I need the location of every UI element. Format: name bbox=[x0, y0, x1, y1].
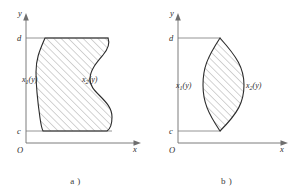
panel-b-caption: b ) bbox=[151, 176, 302, 186]
panel-a-origin-label: O bbox=[17, 145, 23, 155]
panel-b-right-curve-label: x2(y) bbox=[245, 81, 262, 91]
panel-b-x-axis-label: x bbox=[279, 144, 284, 154]
panel-a-right-curve-label: x2(y) bbox=[81, 75, 98, 85]
figure-root: y x O d c x1(y) x2(y) a ) bbox=[0, 0, 302, 194]
panel-a-left-curve-label: x1(y) bbox=[21, 75, 38, 85]
panel-b-left-curve-label: x1(y) bbox=[175, 81, 192, 91]
panel-a-x-axis-label: x bbox=[132, 144, 137, 154]
panel-b-y-axis-label: y bbox=[169, 8, 174, 18]
figure-panel-b: y x O d c x1(y) x2(y) b ) bbox=[151, 0, 302, 194]
panel-b-y-axis bbox=[175, 13, 181, 143]
panel-b-x-axis bbox=[178, 140, 288, 146]
panel-b-origin-label: O bbox=[169, 145, 175, 155]
panel-b-tick-label-d: d bbox=[169, 33, 174, 43]
panel-a-y-axis-label: y bbox=[17, 8, 22, 18]
panel-a-tick-label-c: c bbox=[17, 126, 21, 136]
panel-b-tick-label-c: c bbox=[169, 126, 173, 136]
panel-a-caption: a ) bbox=[0, 176, 151, 186]
panel-a-canvas: y x O d c x1(y) x2(y) bbox=[0, 0, 151, 194]
panel-b-canvas: y x O d c x1(y) x2(y) bbox=[151, 0, 302, 194]
panel-a-x-axis bbox=[26, 140, 141, 146]
figure-panel-a: y x O d c x1(y) x2(y) a ) bbox=[0, 0, 151, 194]
panel-a-tick-label-d: d bbox=[17, 33, 22, 43]
